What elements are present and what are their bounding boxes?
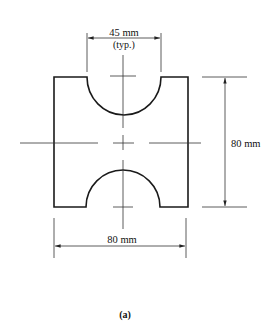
height-dimension: 80 mm: [202, 77, 260, 207]
notch-width-label: 45 mm: [109, 27, 138, 38]
drawing-canvas: 45 mm (typ.) 80 mm 80 mm (a): [0, 0, 275, 330]
width-dimension: 80 mm: [54, 218, 186, 258]
part-outline: [54, 77, 188, 207]
width-label: 80 mm: [107, 234, 136, 245]
notch-width-dimension: 45 mm (typ.): [87, 27, 161, 72]
height-label: 80 mm: [231, 138, 260, 149]
notch-typ-label: (typ.): [113, 39, 135, 51]
figure-caption: (a): [119, 309, 131, 321]
